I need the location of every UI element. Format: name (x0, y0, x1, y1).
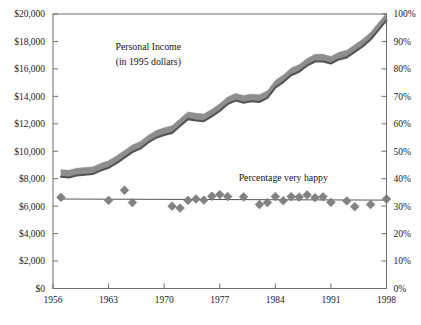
left-axis-tick-label: $16,000 (14, 64, 45, 74)
left-axis-tick-label: $10,000 (14, 147, 45, 157)
left-axis-tick-label: $8,000 (19, 174, 45, 184)
chart-canvas: $0$2,000$4,000$6,000$8,000$10,000$12,000… (0, 0, 421, 325)
right-axis-tick-label: 90% (394, 37, 412, 47)
x-axis-tick-label: 1984 (266, 295, 285, 305)
chart-annotation-label: (in 1995 dollars) (116, 56, 181, 68)
right-axis-tick-label: 10% (394, 256, 412, 266)
right-axis-tick-label: 40% (394, 174, 412, 184)
right-axis-tick-label: 50% (394, 147, 412, 157)
x-axis-tick-label: 1991 (321, 295, 340, 305)
left-axis-tick-label: $4,000 (19, 229, 45, 239)
left-axis-tick-label: $0 (36, 284, 46, 294)
right-axis-tick-label: 30% (394, 202, 412, 212)
right-axis-tick-label: 0% (394, 284, 407, 294)
chart-annotation-label: Percentage very happy (239, 172, 328, 183)
right-axis-tick-label: 20% (394, 229, 412, 239)
chart-annotation-label: Personal Income (115, 41, 181, 52)
right-axis-tick-label: 70% (394, 92, 412, 102)
right-axis-tick-label: 100% (394, 9, 416, 19)
x-axis-tick-label: 1956 (44, 295, 63, 305)
left-axis-tick-label: $14,000 (14, 92, 45, 102)
x-axis-tick-label: 1998 (377, 295, 396, 305)
x-axis-tick-label: 1970 (155, 295, 174, 305)
left-axis-tick-label: $18,000 (14, 37, 45, 47)
x-axis-tick-label: 1977 (210, 295, 229, 305)
chart-container: $0$2,000$4,000$6,000$8,000$10,000$12,000… (0, 0, 421, 325)
left-axis-tick-label: $6,000 (19, 202, 45, 212)
left-axis-tick-label: $12,000 (14, 119, 45, 129)
right-axis-tick-label: 80% (394, 64, 412, 74)
left-axis-tick-label: $20,000 (14, 9, 45, 19)
x-axis-tick-label: 1963 (99, 295, 118, 305)
left-axis-tick-label: $2,000 (19, 256, 45, 266)
right-axis-tick-label: 60% (394, 119, 412, 129)
